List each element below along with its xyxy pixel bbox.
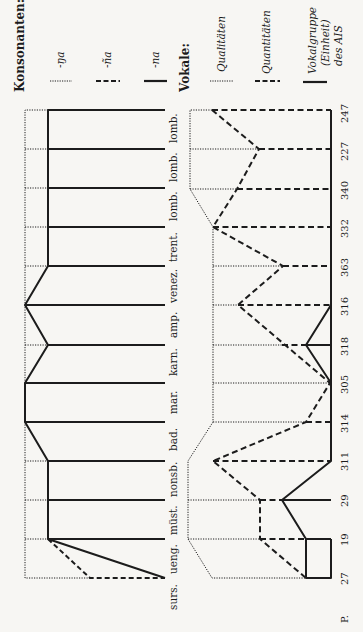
point-number: 318 <box>340 337 350 356</box>
vowel-chart <box>188 110 331 578</box>
legend-label-quantitaeten: Quantitäten <box>261 10 272 74</box>
point-number: 332 <box>340 219 350 238</box>
point-number: 314 <box>340 414 350 433</box>
region-label: ueng. <box>168 544 179 574</box>
region-label: bad. <box>168 428 179 451</box>
point-number: 363 <box>340 258 350 277</box>
point-number: 311 <box>340 452 350 471</box>
region-label: amp. <box>168 312 179 338</box>
region-label: trent. <box>168 232 179 262</box>
region-label: lomb. <box>168 113 179 143</box>
region-label: surs. <box>168 584 179 610</box>
consonants-legend-title: Konsonanten: <box>14 0 26 92</box>
region-label: mar. <box>168 391 179 414</box>
point-number: 340 <box>340 181 350 200</box>
chart-lines <box>0 0 363 632</box>
point-number: 27 <box>340 572 350 585</box>
region-label: lomb. <box>168 152 179 182</box>
region-label: müst. <box>168 505 179 535</box>
legend-label-nga: -ŋa <box>55 51 66 68</box>
legend-label-nya: -ña <box>102 51 113 68</box>
point-number: 227 <box>340 142 350 161</box>
legend-label-vokalgruppe: Vokalgruppe <box>307 7 318 74</box>
legend-label-na: -na <box>150 51 161 68</box>
point-number: 305 <box>340 375 350 394</box>
legend-label-qualitaeten: Qualitäten <box>216 16 227 72</box>
region-label: nonsb. <box>168 462 179 497</box>
point-prefix: P. <box>340 615 350 623</box>
region-label: karn. <box>168 348 179 376</box>
region-label: lomb. <box>168 191 179 221</box>
consonant-chart <box>25 110 165 578</box>
legend-label-des-ais: des AIS <box>333 25 344 66</box>
region-label: venez. <box>168 269 179 303</box>
point-number: 247 <box>340 104 350 123</box>
figure-page: Konsonanten: -ŋa -ña -na Vokale: Qualitä… <box>0 0 363 632</box>
vowels-legend-title: Vokale: <box>179 43 191 92</box>
legend-label-einheit: (Einheit) <box>320 19 331 66</box>
point-number: 29 <box>340 494 350 507</box>
point-number: 19 <box>340 533 350 546</box>
point-number: 316 <box>340 297 350 316</box>
